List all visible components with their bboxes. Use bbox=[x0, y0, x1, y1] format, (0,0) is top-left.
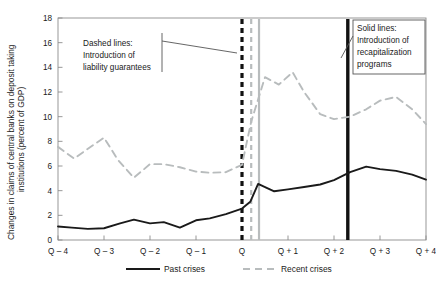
x-tick-label: Q + 3 bbox=[370, 247, 391, 256]
x-tick-label: Q – 1 bbox=[186, 247, 206, 256]
x-tick-label: Q – 2 bbox=[140, 247, 160, 256]
annotation-solid-line1: Solid lines: bbox=[357, 24, 397, 33]
annotation-solid-line3: recapitalization bbox=[357, 48, 412, 57]
annotation-dashed-line2: Introduction of bbox=[83, 51, 136, 60]
y-tick-label: 8 bbox=[47, 137, 52, 146]
x-tick-label: Q – 4 bbox=[48, 247, 68, 256]
y-tick-label: 16 bbox=[43, 39, 53, 48]
y-tick-label: 2 bbox=[47, 211, 52, 220]
annotation-dashed-leader-line bbox=[162, 41, 237, 53]
y-axis-title-line1: Changes in claims of central banks on de… bbox=[6, 44, 16, 240]
y-tick-label: 10 bbox=[43, 113, 53, 122]
annotation-solid-lines: Solid lines: Introduction of recapitaliz… bbox=[341, 20, 425, 74]
annotation-dashed-line3: liability guarantees bbox=[83, 63, 151, 72]
annotation-dashed-lines: Dashed lines: Introduction of liability … bbox=[83, 33, 237, 72]
x-axis-tick-labels: Q – 4Q – 3Q – 2Q – 1QQ + 1Q + 2Q + 3Q + … bbox=[48, 247, 436, 256]
y-tick-label: 6 bbox=[47, 162, 52, 171]
x-tick-label: Q + 4 bbox=[416, 247, 436, 256]
legend-label-past-crises: Past crises bbox=[164, 264, 205, 274]
y-tick-label: 4 bbox=[47, 187, 52, 196]
y-axis-title-line2: institutions (percent of GDP) bbox=[16, 87, 26, 192]
y-axis-ticks bbox=[58, 18, 63, 240]
y-tick-label: 0 bbox=[47, 236, 52, 245]
y-axis-title: Changes in claims of central banks on de… bbox=[6, 44, 26, 240]
annotation-solid-line4: programs bbox=[357, 60, 392, 69]
vertical-event-markers bbox=[242, 19, 348, 240]
y-tick-label: 18 bbox=[43, 14, 53, 23]
y-tick-label: 14 bbox=[43, 63, 53, 72]
y-axis-tick-labels: 024681012141618 bbox=[43, 14, 53, 245]
series-line-recent-crises bbox=[58, 72, 426, 177]
x-tick-label: Q bbox=[239, 247, 245, 256]
chart-container: Changes in claims of central banks on de… bbox=[0, 0, 436, 285]
legend-label-recent-crises: Recent crises bbox=[281, 264, 332, 274]
y-tick-label: 12 bbox=[43, 88, 53, 97]
x-tick-label: Q – 3 bbox=[94, 247, 114, 256]
x-tick-label: Q + 2 bbox=[324, 247, 345, 256]
annotation-dashed-line1: Dashed lines: bbox=[83, 39, 133, 48]
chart-legend: Past crises Recent crises bbox=[126, 264, 332, 274]
deposit-claims-line-chart: Changes in claims of central banks on de… bbox=[0, 0, 436, 285]
x-tick-label: Q + 1 bbox=[278, 247, 299, 256]
annotation-solid-line2: Introduction of bbox=[357, 36, 410, 45]
